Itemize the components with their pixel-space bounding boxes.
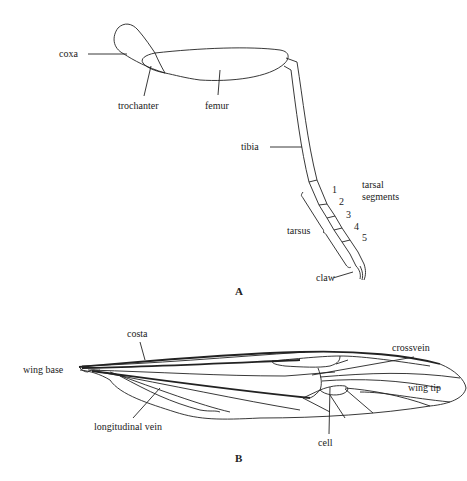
label-costa: costa — [127, 329, 148, 339]
panel-letter-b: B — [235, 452, 242, 464]
segment-number-4: 4 — [354, 222, 359, 232]
label-tibia: tibia — [241, 142, 259, 152]
label-tarsal-segments-2: segments — [362, 192, 399, 202]
label-wing-base: wing base — [23, 365, 63, 375]
label-coxa: coxa — [59, 49, 78, 59]
wing-drawing — [0, 0, 467, 481]
segment-number-1: 1 — [332, 185, 337, 195]
segment-number-3: 3 — [346, 210, 351, 220]
label-wing-tip: wing tip — [408, 383, 441, 393]
label-crossvein: crossvein — [392, 343, 430, 353]
figure-canvas: coxa trochanter femur tibia tarsal segme… — [0, 0, 467, 481]
label-trochanter: trochanter — [118, 101, 159, 111]
label-claw: claw — [316, 273, 335, 283]
costa-vein — [79, 352, 440, 367]
label-femur: femur — [205, 101, 229, 111]
panel-letter-a: A — [235, 285, 243, 297]
segment-number-5: 5 — [362, 233, 367, 243]
label-longitudinal-vein: longitudinal vein — [94, 422, 162, 432]
label-cell: cell — [318, 438, 332, 448]
label-tarsus: tarsus — [287, 226, 310, 236]
segment-number-2: 2 — [339, 197, 344, 207]
label-tarsal-segments-1: tarsal — [362, 180, 384, 190]
